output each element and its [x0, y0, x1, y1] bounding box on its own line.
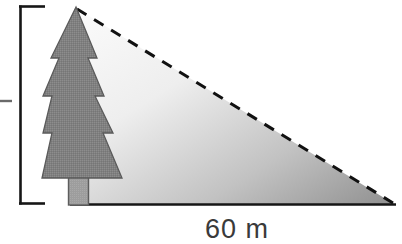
diagram-canvas: 60 m	[0, 0, 402, 244]
height-bracket	[0, 6, 45, 205]
tree-trunk	[69, 177, 89, 205]
tree-height-diagram: 60 m	[0, 0, 402, 244]
base-length-label: 60 m	[205, 214, 269, 244]
